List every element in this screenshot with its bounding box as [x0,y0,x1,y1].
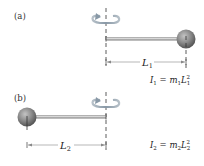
dimension-L1: L1 [106,57,186,70]
panel-b: (b) L2 I2 = m2L22 [14,92,190,153]
rod-b [30,115,106,119]
moment-of-inertia-diagram: (a) L1 I1 = m1L21 [0,0,204,166]
equation-I2: I2 = m2L22 [149,139,190,151]
panel-a: (a) L1 I1 = m1L21 [14,8,196,86]
dimension-L2: L2 [27,140,106,153]
L2-label: L2 [59,140,71,153]
equation-I1: I1 = m1L21 [149,74,190,86]
rod-a [106,37,182,41]
L1-label: L1 [141,57,153,70]
panel-b-label: (b) [14,93,26,103]
panel-a-label: (a) [14,11,26,21]
